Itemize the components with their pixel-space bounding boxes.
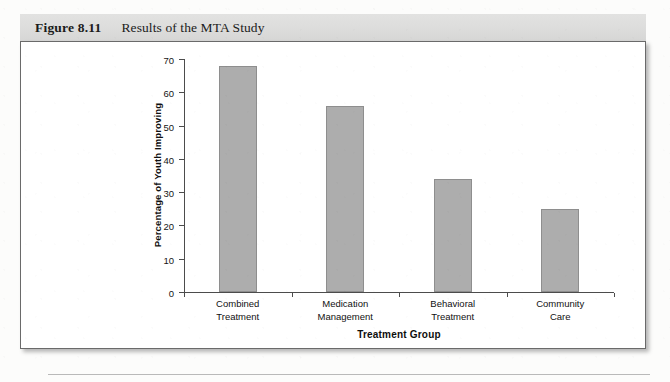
y-tick-label: 50 (163, 121, 174, 132)
bar-chart: Percentage of Youth Improving 0102030405… (21, 42, 645, 348)
x-tick-label: MedicationManagement (292, 297, 400, 323)
x-tick-label: BehavioralTreatment (399, 297, 507, 323)
bar-slot (292, 59, 400, 292)
x-axis-title: Treatment Group (184, 329, 614, 340)
y-tick-label: 0 (169, 288, 174, 299)
bar-slot (399, 59, 507, 292)
bar-slot (507, 59, 615, 292)
figure-block: Figure 8.11 Results of the MTA Study Per… (20, 14, 646, 349)
plot-area: 010203040506070 (184, 59, 614, 293)
bar[interactable] (434, 179, 472, 292)
y-tick-label: 30 (163, 188, 174, 199)
y-axis-title: Percentage of Youth Improving (150, 52, 164, 297)
y-tick-label: 60 (163, 88, 174, 99)
y-tick-label: 10 (163, 254, 174, 265)
y-tick-label: 20 (163, 221, 174, 232)
y-axis-title-label: Percentage of Youth Improving (152, 102, 163, 246)
y-tick-label: 70 (163, 55, 174, 66)
x-axis-labels: CombinedTreatmentMedicationManagementBeh… (184, 297, 614, 331)
figure-number: Figure 8.11 (35, 20, 101, 36)
bar[interactable] (541, 209, 579, 292)
bar[interactable] (326, 106, 364, 292)
bar-slot (184, 59, 292, 292)
figure-caption-bar: Figure 8.11 Results of the MTA Study (20, 14, 646, 41)
bar-series (184, 59, 614, 292)
y-tick-label: 40 (163, 154, 174, 165)
figure-title: Results of the MTA Study (121, 20, 264, 36)
x-tick-label: CombinedTreatment (184, 297, 292, 323)
x-tick-mark (614, 293, 615, 297)
figure-box: Percentage of Youth Improving 0102030405… (20, 41, 646, 349)
x-tick-label: CommunityCare (507, 297, 615, 323)
bar[interactable] (219, 66, 257, 292)
page-rule (48, 374, 650, 375)
page-canvas: Figure 8.11 Results of the MTA Study Per… (0, 0, 670, 382)
